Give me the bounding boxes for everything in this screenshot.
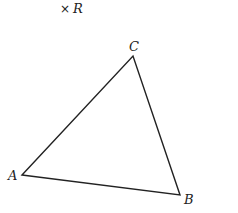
label-b: B [183,192,194,207]
label-a: A [7,168,17,183]
label-c: C [129,39,139,54]
triangle-diagram: × R C A B [0,0,238,213]
triangle-abc [22,56,180,195]
label-r: R [72,1,83,16]
point-r-marker: × [60,2,70,16]
